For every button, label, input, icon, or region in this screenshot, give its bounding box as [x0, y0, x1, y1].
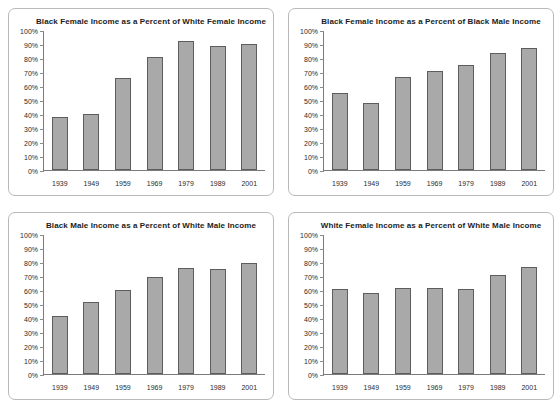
y-axis-tick-label: 80%: [304, 260, 318, 267]
y-axis-tick-label: 30%: [304, 126, 318, 133]
x-axis-tick-label: 1949: [356, 384, 388, 391]
y-axis-tick-label: 40%: [24, 316, 38, 323]
x-axis-tick-label: 1959: [387, 180, 419, 187]
plot-area: 0%10%20%30%40%50%60%70%80%90%100%1939194…: [323, 31, 545, 171]
bar: [363, 103, 379, 170]
bar: [332, 289, 348, 374]
bar-slot: [324, 235, 356, 374]
bar: [83, 302, 99, 374]
x-axis-tick-label: 1939: [44, 384, 76, 391]
x-axis-line: [323, 170, 545, 171]
bar: [52, 117, 68, 170]
bar: [427, 288, 443, 374]
y-axis-tick-label: 50%: [24, 302, 38, 309]
bar-slot: [139, 235, 171, 374]
bar-slot: [324, 31, 356, 170]
y-axis-tick-label: 100%: [300, 232, 318, 239]
x-axis-tick-label: 1949: [76, 180, 108, 187]
y-axis-tick: [320, 171, 324, 172]
bar-slot: [170, 31, 202, 170]
bar: [521, 267, 537, 374]
y-axis-tick-label: 60%: [24, 288, 38, 295]
chart-title: Black Male Income as a Percent of White …: [9, 221, 271, 230]
y-axis-tick-label: 70%: [304, 274, 318, 281]
bar-slot: [387, 31, 419, 170]
bar-slot: [139, 31, 171, 170]
bar: [490, 275, 506, 374]
bar: [115, 290, 131, 374]
y-axis-tick-label: 80%: [24, 56, 38, 63]
bar: [115, 78, 131, 170]
x-axis-tick-label: 1979: [450, 180, 482, 187]
y-axis-tick-label: 10%: [24, 358, 38, 365]
bar-series: [44, 31, 265, 170]
y-axis-tick: [40, 375, 44, 376]
panel-frame: Black Male Income as a Percent of White …: [8, 212, 274, 400]
bar-slot: [356, 235, 388, 374]
bar-slot: [76, 235, 108, 374]
chart-title: Black Female Income as a Percent of Whit…: [9, 17, 271, 26]
plot-area: 0%10%20%30%40%50%60%70%80%90%100%1939194…: [323, 235, 545, 375]
y-axis-tick-label: 20%: [24, 140, 38, 147]
y-axis-tick-label: 90%: [24, 246, 38, 253]
bar: [178, 41, 194, 170]
x-axis-tick-label: 2001: [513, 384, 545, 391]
x-axis-tick-label: 1949: [76, 384, 108, 391]
bar: [241, 44, 257, 170]
bar-slot: [513, 235, 545, 374]
x-axis-tick-label: 1989: [202, 384, 234, 391]
x-axis-line: [43, 374, 265, 375]
panel-frame: White Female Income as a Percent of Whit…: [288, 212, 554, 400]
bar: [147, 277, 163, 374]
y-axis-tick-label: 10%: [24, 154, 38, 161]
bar: [83, 114, 99, 170]
x-axis-tick-label: 1989: [482, 384, 514, 391]
figure-canvas: Black Female Income as a Percent of Whit…: [0, 0, 560, 408]
y-axis-tick-label: 40%: [304, 112, 318, 119]
x-axis-tick-label: 2001: [233, 384, 265, 391]
x-axis-tick-label: 1939: [44, 180, 76, 187]
chart-panel-2: Black Female Income as a Percent of Blac…: [280, 0, 560, 204]
y-axis-tick-label: 60%: [304, 84, 318, 91]
bar-slot: [419, 235, 451, 374]
bar-slot: [107, 235, 139, 374]
y-axis-tick-label: 70%: [24, 70, 38, 77]
y-axis-tick-label: 20%: [304, 140, 318, 147]
y-axis-tick-label: 30%: [24, 126, 38, 133]
bar: [490, 53, 506, 170]
bar-series: [324, 31, 545, 170]
x-axis-tick-label: 1989: [482, 180, 514, 187]
y-axis-tick-label: 60%: [304, 288, 318, 295]
y-axis-tick-label: 50%: [304, 98, 318, 105]
x-axis-tick-label: 2001: [513, 180, 545, 187]
y-axis-tick-label: 40%: [304, 316, 318, 323]
bar: [210, 46, 226, 170]
bar: [52, 316, 68, 374]
bar: [241, 263, 257, 374]
y-axis-tick-label: 30%: [304, 330, 318, 337]
x-axis-tick-label: 2001: [233, 180, 265, 187]
y-axis-tick-label: 80%: [24, 260, 38, 267]
bar: [395, 77, 411, 170]
x-axis-tick-label: 1949: [356, 180, 388, 187]
bar-slot: [107, 31, 139, 170]
y-axis-tick-label: 10%: [304, 154, 318, 161]
x-axis-tick-label: 1969: [139, 384, 171, 391]
y-axis-tick-label: 0%: [28, 168, 38, 175]
panel-frame: Black Female Income as a Percent of Blac…: [288, 8, 554, 196]
bar: [210, 269, 226, 374]
y-axis-tick-label: 0%: [308, 372, 318, 379]
y-axis-tick-label: 40%: [24, 112, 38, 119]
bar-series: [324, 235, 545, 374]
x-axis-labels: 1939194919591969197919892001: [44, 384, 265, 391]
x-axis-tick-label: 1979: [450, 384, 482, 391]
x-axis-tick-label: 1979: [170, 180, 202, 187]
y-axis-tick-label: 90%: [24, 42, 38, 49]
x-axis-labels: 1939194919591969197919892001: [324, 384, 545, 391]
y-axis-tick-label: 100%: [20, 28, 38, 35]
bar: [147, 57, 163, 170]
bar-slot: [356, 31, 388, 170]
bar-slot: [233, 235, 265, 374]
y-axis-tick-label: 0%: [28, 372, 38, 379]
x-axis-tick-label: 1979: [170, 384, 202, 391]
